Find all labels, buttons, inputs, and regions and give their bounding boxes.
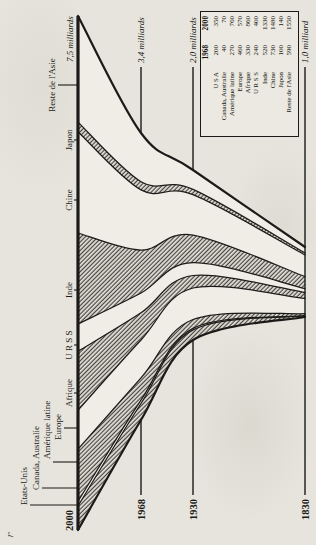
- total-label-1830: 1,0 milliard: [300, 20, 310, 63]
- legend-row-amerique_latine: Amérique latine270760: [228, 15, 236, 134]
- legend-region-name: Canada, Australie: [220, 72, 228, 134]
- legend-row-chine: Chine7301480: [269, 15, 277, 134]
- legend-row-urss: U R S S240400: [252, 15, 260, 134]
- scanned-page: Etats-UnisCanada, AustralieAmérique lati…: [0, 0, 316, 545]
- legend-value-1968: 730: [269, 45, 277, 72]
- legend-row-inde: Inde5201330: [261, 15, 269, 134]
- region-label-amerique_latine: Amérique latine: [42, 401, 52, 459]
- legend-region-name: U S A: [212, 72, 220, 134]
- legend-table: 19682000U S A200350Canada, Australie4070…: [200, 11, 299, 137]
- rotated-chart-area: Etats-UnisCanada, AustralieAmérique lati…: [0, 0, 316, 545]
- legend-region-name: Chine: [269, 72, 277, 134]
- corner-mark: r: [4, 531, 16, 538]
- legend-region-name: Amérique latine: [228, 72, 236, 134]
- legend-value-2000: 860: [244, 16, 252, 45]
- legend-value-2000: 1550: [285, 16, 293, 45]
- legend-region-name: Europe: [236, 72, 244, 134]
- legend-value-2000: 1480: [269, 16, 277, 45]
- legend-value-1968: 100: [277, 45, 285, 72]
- legend-row-canada_australie: Canada, Australie4070: [220, 15, 228, 134]
- legend-region-name: Inde: [261, 72, 269, 134]
- legend-row-usa: U S A200350: [212, 15, 220, 134]
- region-label-inde: Inde: [64, 282, 74, 298]
- total-label-2000: 7,5 milliards: [65, 16, 75, 62]
- legend-value-1968: 520: [261, 45, 269, 72]
- region-label-urss: U R S S: [64, 330, 74, 359]
- year-label-1830: 1830: [300, 499, 311, 520]
- region-label-usa: Etats-Unis: [19, 467, 29, 505]
- legend-value-1968: 330: [244, 45, 252, 72]
- legend-value-2000: 760: [228, 16, 236, 45]
- legend-region-name: Afrique: [244, 72, 252, 134]
- legend-row-europe: Europe460570: [236, 15, 244, 134]
- legend-value-1968: 590: [285, 45, 293, 72]
- legend-value-2000: 70: [220, 16, 228, 45]
- legend-value-1968: 240: [252, 45, 260, 72]
- total-label-1968: 3,4 milliards: [136, 17, 146, 64]
- legend-header-1968: 1968: [202, 45, 212, 72]
- legend-region-name: Japon: [277, 72, 285, 134]
- region-label-chine: Chine: [64, 189, 74, 211]
- region-label-europe: Europe: [53, 414, 63, 440]
- year-label-2000: 2000: [64, 510, 75, 531]
- region-label-reste_asie: Reste de l'Asie: [47, 58, 57, 112]
- region-label-canada_australie: Canada, Australie: [31, 426, 41, 490]
- legend-value-2000: 570: [236, 16, 244, 45]
- legend-row-reste_asie: Reste de l'Asie5901550: [285, 15, 293, 134]
- legend-value-2000: 140: [277, 16, 285, 45]
- legend-value-1968: 460: [236, 45, 244, 72]
- total-label-1930: 2,0 milliards: [188, 17, 198, 63]
- legend-row-afrique: Afrique330860: [244, 15, 252, 134]
- legend-value-1968: 270: [228, 45, 236, 72]
- year-label-1930: 1930: [188, 499, 199, 520]
- legend-header-row: 19682000: [202, 15, 212, 134]
- legend-value-2000: 1330: [261, 16, 269, 45]
- legend-value-1968: 40: [220, 45, 228, 72]
- legend-row-japon: Japon100140: [277, 15, 285, 134]
- legend-value-2000: 350: [212, 16, 220, 45]
- region-label-afrique: Afrique: [64, 379, 74, 407]
- year-label-1968: 1968: [136, 499, 147, 520]
- legend-region-name: Reste de l'Asie: [285, 72, 293, 134]
- legend-region-name: U R S S: [252, 72, 260, 134]
- legend-header-2000: 2000: [202, 16, 212, 45]
- legend-value-2000: 400: [252, 16, 260, 45]
- legend-value-1968: 200: [212, 45, 220, 72]
- region-label-japon: Japon: [64, 129, 74, 150]
